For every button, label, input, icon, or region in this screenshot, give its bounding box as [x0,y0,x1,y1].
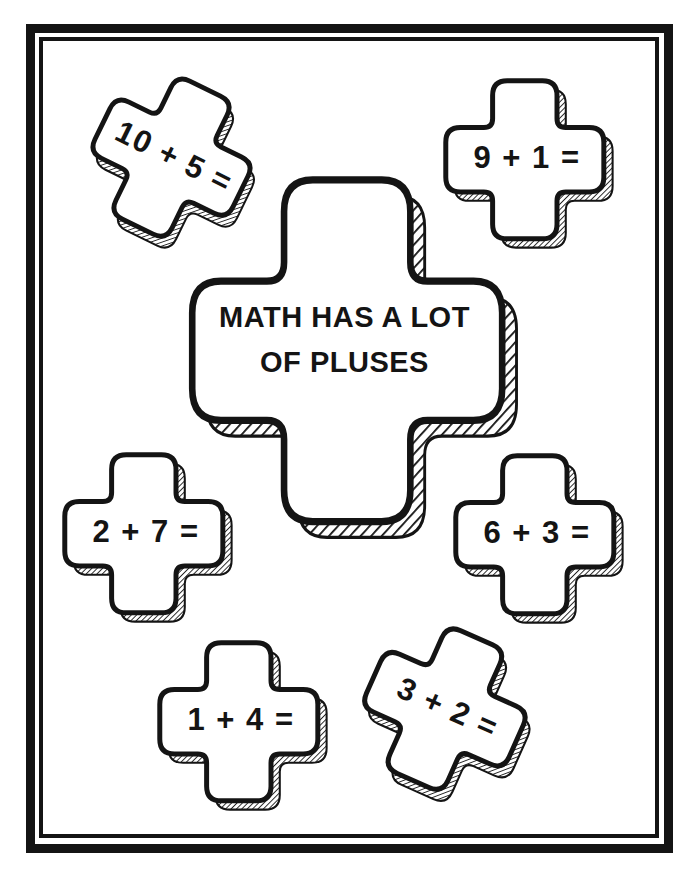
title-line-1: MATH HAS A LOT [175,295,514,340]
plus-card-1-plus-4: 1 + 4 = [151,634,331,814]
plus-card-2-plus-7: 2 + 7 = [56,446,236,626]
equation-label: 2 + 7 = [56,442,236,622]
equation-label: 1 + 4 = [151,630,331,810]
worksheet-title: MATH HAS A LOT OF PLUSES [175,295,514,385]
worksheet-page: 10 + 5 = 9 + 1 = MATH HAS A LOT OF PLUSE… [0,0,699,871]
equation-label: 6 + 3 = [447,443,627,623]
plus-card-6-plus-3: 6 + 3 = [447,447,627,627]
title-line-2: OF PLUSES [175,340,514,385]
